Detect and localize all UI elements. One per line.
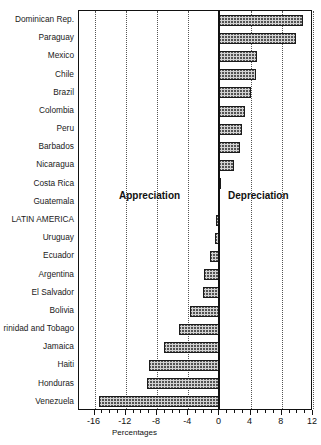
category-label: Dominican Rep. — [0, 10, 74, 28]
x-minor-tick — [117, 410, 118, 413]
category-label: Bolivia — [0, 301, 74, 319]
bar-row — [79, 120, 311, 138]
depreciation-annotation: Depreciation — [228, 190, 289, 201]
bar-row — [79, 375, 311, 393]
bar — [219, 87, 251, 98]
x-minor-tick — [242, 410, 243, 413]
bar-row — [79, 138, 311, 156]
x-minor-tick — [172, 410, 173, 413]
x-tick-label: -4 — [183, 416, 191, 426]
x-tick — [281, 410, 282, 415]
bar — [219, 51, 256, 62]
bar — [219, 69, 256, 80]
bar-row — [79, 356, 311, 374]
category-label: Mexico — [0, 46, 74, 64]
category-label: Jamaica — [0, 337, 74, 355]
bar — [147, 378, 220, 389]
bar — [219, 142, 239, 153]
x-tick-label: -12 — [118, 416, 131, 426]
bar-row — [79, 84, 311, 102]
plot-area — [78, 10, 312, 410]
x-minor-tick — [211, 410, 212, 413]
bar — [203, 287, 219, 298]
bar-chart: Dominican Rep.ParaguayMexicoChileBrazilC… — [0, 0, 321, 445]
bar — [99, 396, 220, 407]
x-minor-tick — [203, 410, 204, 413]
x-tick-label: -8 — [152, 416, 160, 426]
bar-row — [79, 102, 311, 120]
category-label: Venezuela — [0, 392, 74, 410]
x-minor-tick — [257, 410, 258, 413]
category-label: Peru — [0, 119, 74, 137]
bar-row — [79, 229, 311, 247]
bar-row — [79, 320, 311, 338]
bar-row — [79, 284, 311, 302]
x-tick-label: 4 — [247, 416, 252, 426]
appreciation-annotation: Appreciation — [119, 190, 180, 201]
bar-row — [79, 66, 311, 84]
bar-row — [79, 266, 311, 284]
bar-row — [79, 247, 311, 265]
zero-axis-line — [218, 11, 220, 409]
x-minor-tick — [148, 410, 149, 413]
x-tick — [218, 410, 219, 415]
x-minor-tick — [140, 410, 141, 413]
bar — [149, 360, 219, 371]
bar-row — [79, 156, 311, 174]
x-minor-tick — [234, 410, 235, 413]
category-label: El Salvador — [0, 283, 74, 301]
bar-row — [79, 11, 311, 29]
category-label: Argentina — [0, 265, 74, 283]
x-minor-tick — [296, 410, 297, 413]
category-label: Colombia — [0, 101, 74, 119]
x-tick-label: 0 — [216, 416, 221, 426]
bar-row — [79, 338, 311, 356]
x-axis-title-text: Percentages — [112, 428, 157, 437]
bar — [164, 342, 219, 353]
x-minor-tick — [133, 410, 134, 413]
x-minor-tick — [109, 410, 110, 413]
bar — [219, 160, 234, 171]
category-label: Honduras — [0, 374, 74, 392]
bar — [219, 106, 245, 117]
x-minor-tick — [289, 410, 290, 413]
bar-row — [79, 47, 311, 65]
x-minor-tick — [195, 410, 196, 413]
bar-row — [79, 393, 311, 411]
x-minor-tick — [265, 410, 266, 413]
x-tick-label: -16 — [87, 416, 100, 426]
category-label: Nicaragua — [0, 155, 74, 173]
category-label: Brazil — [0, 83, 74, 101]
x-minor-tick — [179, 410, 180, 413]
category-label: Costa Rica — [0, 174, 74, 192]
x-tick — [250, 410, 251, 415]
category-label: rinidad and Tobago — [0, 319, 74, 337]
gridline — [313, 11, 314, 409]
category-label: Barbados — [0, 137, 74, 155]
bar-row — [79, 302, 311, 320]
x-tick — [312, 410, 313, 415]
x-axis-title: Percentages — [0, 428, 321, 437]
category-label: Ecuador — [0, 246, 74, 264]
bar — [204, 269, 220, 280]
x-tick-label: 12 — [307, 416, 317, 426]
x-minor-tick — [164, 410, 165, 413]
category-label: Guatemala — [0, 192, 74, 210]
category-label: Paraguay — [0, 28, 74, 46]
bar — [219, 124, 242, 135]
bar — [190, 306, 220, 317]
x-tick — [187, 410, 188, 415]
bar — [179, 324, 220, 335]
x-minor-tick — [101, 410, 102, 413]
bar — [219, 33, 295, 44]
x-tick — [94, 410, 95, 415]
bar-row — [79, 29, 311, 47]
x-minor-tick — [273, 410, 274, 413]
category-label: LATIN AMERICA — [0, 210, 74, 228]
bar-row — [79, 211, 311, 229]
category-label: Uruguay — [0, 228, 74, 246]
category-label: Haiti — [0, 355, 74, 373]
x-minor-tick — [226, 410, 227, 413]
category-label: Chile — [0, 65, 74, 83]
bar — [219, 15, 302, 26]
